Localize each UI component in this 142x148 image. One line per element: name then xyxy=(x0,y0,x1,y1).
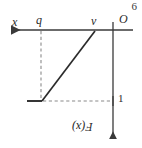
x-axis-label: x xyxy=(12,16,17,28)
figure-container: 6 x q v O 1 F(x) xyxy=(0,0,142,148)
origin-label: O xyxy=(119,13,128,25)
figure-number: 6 xyxy=(132,1,138,12)
cdf-ramp-segment xyxy=(42,31,95,101)
quantile-label: q xyxy=(36,14,42,26)
unit-tick-label: 1 xyxy=(118,93,124,104)
fx-axis-label: F(x) xyxy=(72,121,93,133)
value-label: v xyxy=(91,15,96,27)
